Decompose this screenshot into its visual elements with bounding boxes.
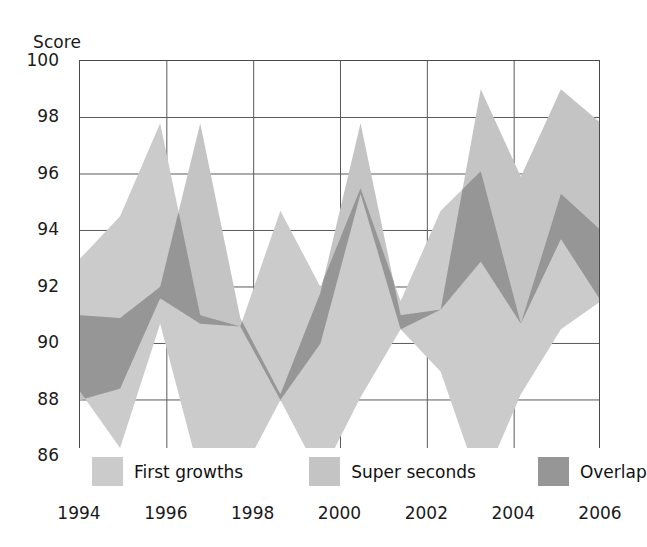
legend-backdrop	[79, 448, 600, 495]
y-tick: 88	[0, 399, 70, 419]
x-tick-label: 2002	[405, 503, 448, 523]
y-tick: 86	[0, 455, 70, 475]
y-axis-title: Score	[33, 32, 81, 52]
x-tick-label: 1998	[231, 503, 274, 523]
y-tick: 90	[0, 342, 70, 362]
x-tick-label: 1996	[144, 503, 187, 523]
chart-canvas	[80, 61, 600, 495]
y-tick-label: 96	[0, 163, 70, 183]
y-tick: 98	[0, 116, 70, 136]
y-tick-label: 92	[0, 276, 70, 296]
y-tick-label: 86	[0, 445, 70, 465]
x-tick-label: 1994	[57, 503, 100, 523]
y-tick: 94	[0, 229, 70, 249]
y-tick: 100	[0, 60, 70, 80]
y-tick-label: 90	[0, 332, 70, 352]
x-tick-label: 2006	[578, 503, 621, 523]
y-tick-label: 98	[0, 106, 70, 126]
y-tick-label: 94	[0, 219, 70, 239]
x-tick-label: 2000	[318, 503, 361, 523]
y-tick: 92	[0, 286, 70, 306]
plot-area	[79, 60, 600, 495]
y-tick: 96	[0, 173, 70, 193]
x-tick-label: 2004	[492, 503, 535, 523]
y-tick-label: 88	[0, 389, 70, 409]
y-tick-label: 100	[0, 50, 70, 70]
